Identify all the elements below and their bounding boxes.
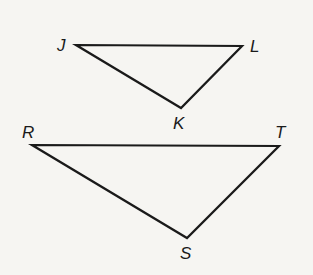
vertex-label-j: J: [56, 36, 66, 55]
vertex-label-k: K: [173, 114, 185, 133]
triangle-jkl-outline: [76, 45, 242, 108]
triangle-jkl: J L K: [56, 36, 259, 133]
triangle-rst-outline: [32, 145, 279, 238]
vertex-label-l: L: [250, 37, 259, 56]
vertex-label-r: R: [22, 123, 34, 142]
triangle-rst: R T S: [22, 123, 287, 263]
geometry-diagram: J L K R T S: [0, 0, 313, 275]
vertex-label-s: S: [180, 244, 192, 263]
vertex-label-t: T: [275, 123, 287, 142]
